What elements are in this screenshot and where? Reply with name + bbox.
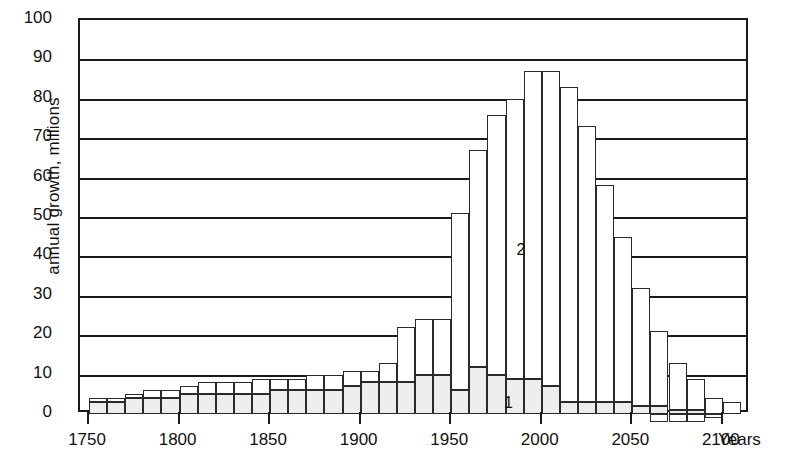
table-row (125, 20, 143, 414)
table-row (89, 20, 107, 414)
bar-segment-series1 (487, 375, 505, 414)
x-tick-mark-1900 (359, 412, 361, 424)
y-tick-label-10: 10 (6, 364, 52, 381)
bar-segment-series2 (687, 379, 705, 411)
series-label-2: 2 (517, 241, 526, 259)
x-tick-mark-1800 (178, 412, 180, 424)
table-row (324, 20, 342, 414)
bar-segment-series1 (324, 390, 342, 414)
table-row (180, 20, 198, 414)
y-tick-label-60: 60 (6, 167, 52, 184)
bar-segment-series1 (270, 390, 288, 414)
bar-segment-series1 (216, 394, 234, 414)
x-tick-label-1750: 1750 (47, 430, 127, 450)
x-tick-label-1850: 1850 (228, 430, 308, 450)
table-row (451, 20, 469, 414)
x-tick-mark-1850 (268, 412, 270, 424)
bar-segment-series2 (107, 398, 125, 402)
bar-segment-series1 (542, 386, 560, 414)
y-tick-label-70: 70 (6, 127, 52, 144)
table-row (343, 20, 361, 414)
table-row (161, 20, 179, 414)
x-tick-mark-1750 (87, 412, 89, 424)
table-row (705, 20, 723, 414)
bar-segment-series2 (542, 71, 560, 386)
bar-segment-series2 (433, 319, 451, 374)
table-row (143, 20, 161, 414)
x-tick-label-1800: 1800 (138, 430, 218, 450)
x-tick-label-2050: 2050 (590, 430, 670, 450)
table-row (524, 20, 542, 414)
bar-segment-series2 (306, 375, 324, 391)
bar-segment-series2 (560, 87, 578, 402)
x-tick-label-1900: 1900 (319, 430, 399, 450)
y-tick-label-100: 100 (6, 9, 52, 26)
table-row (632, 20, 650, 414)
bar-segment-series1 (143, 398, 161, 414)
bar-segment-series1 (288, 390, 306, 414)
bar-segment-series1 (180, 394, 198, 414)
bar-segment-series2 (180, 386, 198, 394)
table-row (216, 20, 234, 414)
bar-segment-series1 (343, 386, 361, 414)
bar-segment-series2 (324, 375, 342, 391)
bar-segment-series1 (361, 382, 379, 414)
chart-container: annual growth, millions 0102030405060708… (0, 0, 794, 460)
table-row (560, 20, 578, 414)
bar-segment-series2 (506, 99, 524, 379)
table-row (669, 20, 687, 414)
x-axis-title: Years (718, 430, 761, 450)
bar-segment-series1 (415, 375, 433, 414)
bar-segment-series2 (650, 331, 668, 406)
bar-segment-series2 (397, 327, 415, 382)
bar-segment-series2 (216, 382, 234, 394)
bar-segment-series1 (433, 375, 451, 414)
table-row (542, 20, 560, 414)
series-label-1: 1 (504, 394, 513, 412)
bar-segment-series2 (469, 150, 487, 367)
table-row (361, 20, 379, 414)
bar-segment-series2 (361, 371, 379, 383)
bar-segment-series2 (524, 71, 542, 378)
table-row (379, 20, 397, 414)
table-row (614, 20, 632, 414)
table-row (252, 20, 270, 414)
table-row (397, 20, 415, 414)
table-row (469, 20, 487, 414)
bar-segment-series2 (632, 288, 650, 406)
x-tick-mark-2050 (630, 412, 632, 424)
bar-segment-series2 (143, 390, 161, 398)
bar-segment-series2 (669, 363, 687, 410)
y-tick-label-20: 20 (6, 324, 52, 341)
bar-series-group (80, 20, 746, 410)
x-tick-mark-1950 (449, 412, 451, 424)
x-tick-mark-2100 (721, 412, 723, 424)
bar-segment-series2 (270, 379, 288, 391)
bar-segment-series2 (89, 398, 107, 402)
bar-segment-series1 (89, 402, 107, 414)
table-row (506, 20, 524, 414)
bar-segment-series2 (252, 379, 270, 395)
bar-segment-series2 (343, 371, 361, 387)
bar-segment-series2 (614, 237, 632, 402)
bar-segment-series1 (650, 406, 668, 414)
bar-segment-series1 (632, 406, 650, 414)
table-row (433, 20, 451, 414)
plot-area: 21 (78, 18, 748, 412)
bar-segment-series2 (198, 382, 216, 394)
y-tick-label-0: 0 (6, 403, 52, 420)
table-row (288, 20, 306, 414)
bar-segment-series1 (107, 402, 125, 414)
table-row (650, 20, 668, 414)
table-row (198, 20, 216, 414)
bar-segment-series2 (379, 363, 397, 383)
table-row (107, 20, 125, 414)
bar-segment-series2 (125, 394, 143, 398)
table-row (687, 20, 705, 414)
table-row (723, 20, 741, 414)
bar-segment-series2 (415, 319, 433, 374)
bar-segment-series2 (578, 126, 596, 402)
y-tick-label-40: 40 (6, 245, 52, 262)
table-row (415, 20, 433, 414)
y-tick-label-90: 90 (6, 48, 52, 65)
